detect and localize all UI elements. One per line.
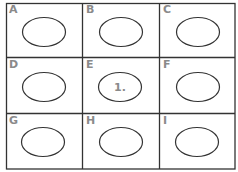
cell-letter: D — [9, 59, 18, 71]
cell-letter: G — [9, 115, 18, 127]
cell-g: G — [6, 114, 82, 169]
cell-h: H — [83, 114, 159, 169]
cell-letter: H — [86, 115, 95, 127]
cell-letter: I — [163, 115, 167, 127]
grid-diagram: 1. A B C D E F G H I — [6, 3, 235, 169]
cell-e: E — [83, 58, 159, 113]
cell-i: I — [160, 114, 236, 169]
cell-a: A — [6, 3, 82, 57]
cell-letter: A — [9, 4, 18, 16]
cell-d: D — [6, 58, 82, 113]
cell-f: F — [160, 58, 236, 113]
cell-letter: C — [163, 4, 171, 16]
cell-letter: E — [86, 59, 94, 71]
cell-c: C — [160, 3, 236, 57]
cell-b: B — [83, 3, 159, 57]
cell-letter: B — [86, 4, 94, 16]
cell-letter: F — [163, 59, 171, 71]
